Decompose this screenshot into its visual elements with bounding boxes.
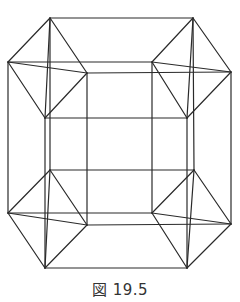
top_left-edge: [8, 62, 45, 118]
vertical-link: [193, 18, 194, 170]
figure-caption: 図 19.5: [0, 278, 240, 299]
tesseract-diagram: [0, 0, 240, 302]
bottom_right-cross-horizontal: [152, 213, 231, 224]
bottom_right-edge: [152, 170, 194, 213]
top_left-edge: [45, 73, 87, 118]
diagram-edges: [8, 18, 231, 268]
bottom_left-edge: [8, 213, 45, 268]
horizontal-link: [87, 224, 231, 225]
bottom_left-edge: [50, 170, 87, 225]
top_right-cross-horizontal: [152, 62, 231, 72]
top_left-edge: [50, 18, 87, 73]
bottom_right-edge: [152, 213, 187, 268]
bottom_left-edge: [45, 225, 87, 268]
bottom_right-edge: [187, 224, 231, 268]
top_left-edge: [8, 18, 50, 62]
top_right-cross-vertical: [187, 18, 193, 118]
top_right-edge: [152, 62, 187, 118]
bottom_right-edge: [194, 170, 231, 224]
horizontal-link: [87, 72, 231, 73]
top_right-edge: [152, 18, 193, 62]
top_right-edge: [193, 18, 231, 72]
bottom_left-edge: [8, 170, 50, 213]
